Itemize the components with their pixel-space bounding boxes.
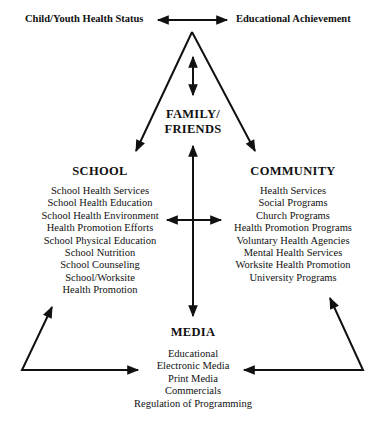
list-item: School Nutrition	[20, 247, 180, 259]
media-section: MEDIA Educational Electronic Media Print…	[118, 325, 268, 410]
list-item: Mental Health Services	[218, 247, 368, 259]
list-item: School Physical Education	[20, 235, 180, 247]
community-section: COMMUNITY Health Services Social Program…	[218, 164, 368, 284]
list-item: Voluntary Health Agencies	[218, 235, 368, 247]
list-item: School Health Services	[20, 185, 180, 197]
list-item: School/Worksite	[20, 272, 180, 284]
list-item: Educational	[118, 348, 268, 360]
list-item: Church Programs	[218, 210, 368, 222]
school-section: SCHOOL School Health Services School Hea…	[20, 164, 180, 297]
list-item: School Health Education	[20, 197, 180, 209]
community-heading: COMMUNITY	[218, 164, 368, 179]
list-item: Health Services	[218, 185, 368, 197]
media-items: Educational Electronic Media Print Media…	[118, 348, 268, 410]
list-item: University Programs	[218, 272, 368, 284]
list-item: Worksite Health Promotion	[218, 259, 368, 271]
media-heading: MEDIA	[118, 325, 268, 340]
list-item: Health Promotion Programs	[218, 222, 368, 234]
list-item: School Health Environment	[20, 210, 180, 222]
school-heading: SCHOOL	[20, 164, 180, 179]
list-item: School Counseling	[20, 259, 180, 271]
list-item: Social Programs	[218, 197, 368, 209]
list-item: Health Promotion Efforts	[20, 222, 180, 234]
list-item: Commercials	[118, 385, 268, 397]
school-items: School Health Services School Health Edu…	[20, 185, 180, 297]
list-item: Print Media	[118, 373, 268, 385]
list-item: Electronic Media	[118, 360, 268, 372]
educational-achievement-label: Educational Achievement	[236, 13, 351, 24]
list-item: Regulation of Programming	[118, 398, 268, 410]
community-items: Health Services Social Programs Church P…	[218, 185, 368, 284]
family-heading-line1: FAMILY/	[143, 107, 243, 122]
list-item: Health Promotion	[20, 284, 180, 296]
family-friends-heading: FAMILY/ FRIENDS	[143, 107, 243, 137]
child-youth-health-status-label: Child/Youth Health Status	[25, 13, 143, 24]
family-heading-line2: FRIENDS	[143, 122, 243, 137]
